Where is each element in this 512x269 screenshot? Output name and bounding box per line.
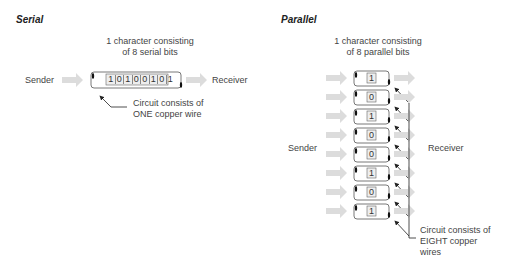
parallel-sender-arrow-icon — [326, 71, 347, 85]
serial-bit: 0 — [158, 75, 167, 84]
parallel-note: Circuit consists of EIGHT copper wires — [420, 225, 491, 258]
parallel-note-line3: wires — [420, 247, 491, 258]
serial-bit: 0 — [141, 75, 150, 84]
parallel-bit: 0 — [367, 92, 376, 102]
parallel-receiver-arrow-icon — [394, 109, 415, 123]
parallel-caption-line1: 1 character consisting — [318, 36, 438, 47]
parallel-receiver-arrow-icon — [394, 147, 415, 161]
serial-bit: 1 — [167, 75, 175, 84]
parallel-note-line2: EIGHT copper — [420, 236, 491, 247]
parallel-sender-arrow-icon — [326, 109, 347, 123]
parallel-receiver-arrow-icon — [394, 128, 415, 142]
parallel-bit: 1 — [367, 168, 376, 178]
parallel-receiver-arrow-icon — [394, 204, 415, 218]
parallel-receiver-arrow-icon — [394, 185, 415, 199]
parallel-receiver-arrow-icon — [394, 90, 415, 104]
parallel-caption: 1 character consisting of 8 parallel bit… — [318, 36, 438, 58]
parallel-pointer-arrow-icon — [395, 221, 409, 236]
parallel-sender-arrow-icon — [326, 90, 347, 104]
parallel-bit: 1 — [367, 206, 376, 216]
serial-pointer-arrow-icon — [100, 96, 127, 107]
parallel-sender-arrow-icon — [326, 185, 347, 199]
serial-receiver-arrow-icon — [186, 73, 207, 87]
serial-bit: 0 — [116, 75, 125, 84]
serial-bit: 1 — [150, 75, 159, 84]
parallel-sender-arrow-icon — [326, 204, 347, 218]
serial-bit: 1 — [107, 75, 116, 84]
parallel-title: Parallel — [281, 14, 317, 25]
serial-bit: 1 — [124, 75, 133, 84]
parallel-bit: 0 — [367, 130, 376, 140]
parallel-sender-arrow-icon — [326, 128, 347, 142]
parallel-bit: 0 — [367, 149, 376, 159]
parallel-sender-arrow-icon — [326, 147, 347, 161]
parallel-bit: 0 — [367, 187, 376, 197]
parallel-receiver-label: Receiver — [428, 143, 464, 154]
parallel-caption-line2: of 8 parallel bits — [318, 47, 438, 58]
parallel-receiver-arrow-icon — [394, 166, 415, 180]
parallel-bit: 1 — [367, 111, 376, 121]
parallel-sender-label: Sender — [288, 143, 317, 154]
serial-bit: 0 — [133, 75, 142, 84]
parallel-sender-arrow-icon — [326, 166, 347, 180]
parallel-receiver-arrow-icon — [394, 71, 415, 85]
serial-sender-arrow-icon — [62, 73, 83, 87]
parallel-bit: 1 — [367, 73, 376, 83]
serial-bits: 10100101 — [107, 75, 174, 84]
parallel-note-line1: Circuit consists of — [420, 225, 491, 236]
